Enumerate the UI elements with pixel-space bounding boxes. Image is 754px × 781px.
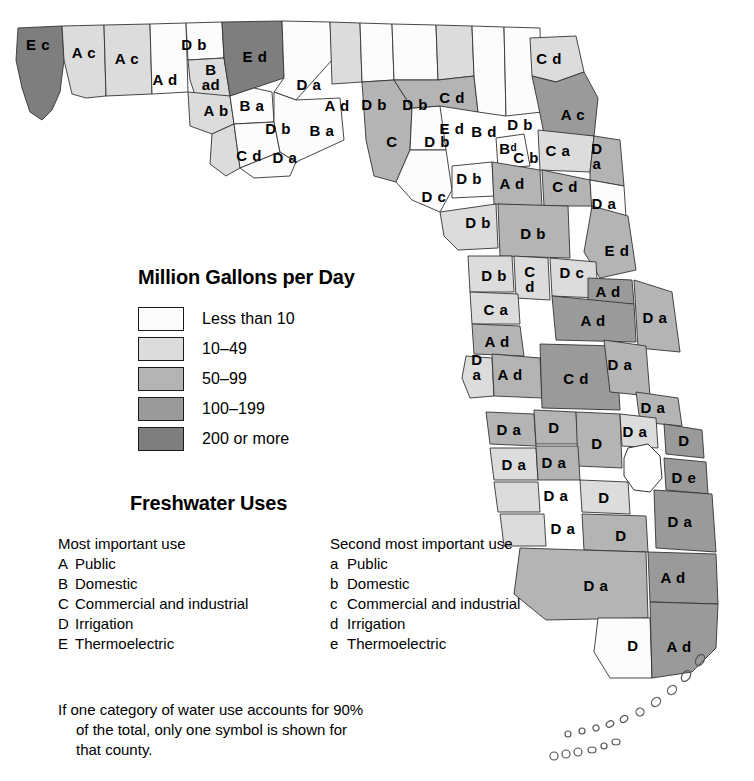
use-item-key: c xyxy=(330,595,347,612)
legend-rows: Less than 1010–4950–99100–199200 or more xyxy=(138,305,438,452)
county-code-label: A d xyxy=(324,98,349,113)
county-code-label: A c xyxy=(561,107,585,122)
county-code-label: C d xyxy=(439,90,465,105)
use-item: APublic xyxy=(58,555,306,572)
county-code-label: D b xyxy=(465,215,491,230)
lake-okeechobee xyxy=(624,444,662,492)
county-code-label: D b xyxy=(402,97,428,112)
legend-row: 100–199 xyxy=(138,395,438,422)
use-item-label: Irrigation xyxy=(75,615,133,632)
county-code-label: D a xyxy=(584,578,609,593)
use-item-key: B xyxy=(58,575,75,592)
use-item-label: Commercial and industrial xyxy=(75,595,248,612)
county-code-label: D a xyxy=(502,457,527,472)
county-code-label: D c xyxy=(422,189,447,204)
county-code-label: D a xyxy=(297,77,322,92)
county-code-label: C d xyxy=(536,51,562,66)
county-code-label: D a xyxy=(592,196,617,211)
county-code-label: A c xyxy=(72,45,96,60)
county-code-label: D b xyxy=(181,37,207,52)
use-item: eThermoelectric xyxy=(330,635,578,652)
county-code-label: D a xyxy=(641,400,666,415)
legend-swatch xyxy=(138,307,184,331)
legend: Million Gallons per Day Less than 1010–4… xyxy=(138,266,438,455)
county-code-label: A d xyxy=(499,176,524,191)
county-code-label: D b xyxy=(507,117,533,132)
county-code-label: E d xyxy=(605,243,630,258)
county-code-label: C d xyxy=(524,265,535,294)
secondary-use-heading: Second most important use xyxy=(330,535,578,552)
county-code-label: D b xyxy=(265,121,291,136)
county-code-label: E c xyxy=(26,37,50,52)
use-item: bDomestic xyxy=(330,575,578,592)
use-item-key: E xyxy=(58,635,75,652)
county-code-label: A d xyxy=(666,639,691,654)
county-shape xyxy=(494,482,540,512)
county-code-label: A c xyxy=(115,51,139,66)
note-line-3: that county. xyxy=(58,740,478,760)
note-line-2: of the total, only one symbol is shown f… xyxy=(58,720,478,740)
county-code-label: A d xyxy=(484,334,509,349)
use-item-key: b xyxy=(330,575,347,592)
county-code-label: B a xyxy=(310,123,335,138)
county-code-label: D a xyxy=(471,353,482,382)
legend-swatch xyxy=(138,337,184,361)
county-code-label: D xyxy=(615,528,626,543)
legend-label: 200 or more xyxy=(202,430,289,448)
use-item-label: Public xyxy=(347,555,388,572)
county-code-label: D a xyxy=(623,424,648,439)
county-code-label: B a xyxy=(240,98,265,113)
county-code-label: E d xyxy=(440,121,465,136)
secondary-use-items: aPublicbDomesticcCommercial and industri… xyxy=(330,555,578,652)
county-code-label: D b xyxy=(456,171,482,186)
note-line-1: If one category of water use accounts fo… xyxy=(58,701,363,718)
county-code-label: A d xyxy=(595,284,620,299)
use-item-key: d xyxy=(330,615,347,632)
use-item-key: A xyxy=(58,555,75,572)
county-code-label: A b xyxy=(203,103,228,118)
county-code-label: D a xyxy=(591,142,602,171)
use-item: dIrrigation xyxy=(330,615,578,632)
secondary-use-column: Second most important use aPublicbDomest… xyxy=(330,535,578,655)
county-shape xyxy=(330,22,362,84)
county-code-label: D xyxy=(548,420,559,435)
county-code-label: A d xyxy=(660,570,685,585)
freshwater-uses-columns: Most important use APublicBDomesticCComm… xyxy=(58,535,578,655)
county-code-label: C d xyxy=(563,371,589,386)
legend-swatch xyxy=(138,367,184,391)
legend-row: 50–99 xyxy=(138,365,438,392)
legend-row: 200 or more xyxy=(138,425,438,452)
county-code-label: B d xyxy=(471,124,497,139)
county-shape xyxy=(594,618,652,678)
legend-label: 50–99 xyxy=(202,370,247,388)
use-item: BDomestic xyxy=(58,575,306,592)
county-code-label: D xyxy=(627,638,638,653)
use-item-label: Domestic xyxy=(347,575,410,592)
county-shape xyxy=(532,72,598,136)
county-code-label: D b xyxy=(481,268,507,283)
legend-title: Million Gallons per Day xyxy=(138,266,438,289)
use-item: cCommercial and industrial xyxy=(330,595,578,612)
use-item-key: D xyxy=(58,615,75,632)
county-shape xyxy=(472,26,506,116)
legend-label: 10–49 xyxy=(202,340,247,358)
legend-label: Less than 10 xyxy=(202,310,295,328)
use-item: aPublic xyxy=(330,555,578,572)
county-code-label: A d xyxy=(152,72,177,87)
county-code-label: C a xyxy=(484,302,509,317)
county-code-label: C xyxy=(386,134,397,149)
florida-water-use-map: E cA cA cA dD bB adE dA bB aD bC dD aD a… xyxy=(0,0,754,781)
legend-swatch xyxy=(138,427,184,451)
county-code-label: D a xyxy=(551,521,576,536)
use-item-key: e xyxy=(330,635,347,652)
legend-label: 100–199 xyxy=(202,400,265,418)
use-item-label: Commercial and industrial xyxy=(347,595,520,612)
use-item-key: a xyxy=(330,555,347,572)
legend-swatch xyxy=(138,397,184,421)
county-code-label: D a xyxy=(273,150,298,165)
county-code-label: D a xyxy=(544,488,569,503)
county-code-label: D b xyxy=(361,97,387,112)
county-code-label: D a xyxy=(497,422,522,437)
county-code-label: C d xyxy=(236,148,262,163)
county-shape xyxy=(392,24,438,80)
